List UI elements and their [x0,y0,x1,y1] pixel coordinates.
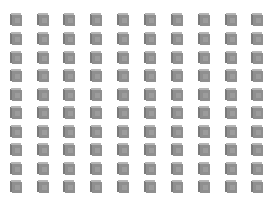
cube-icon[interactable] [171,162,183,175]
cube-icon[interactable] [171,51,183,64]
cube-icon[interactable] [37,88,49,101]
cube-icon[interactable] [198,13,210,26]
cube-icon[interactable] [63,143,75,156]
cube-icon[interactable] [37,69,49,82]
cube-icon[interactable] [10,162,22,175]
cube-icon[interactable] [90,88,102,101]
cube-icon[interactable] [144,51,156,64]
cube-icon[interactable] [117,162,129,175]
cube-icon[interactable] [198,106,210,119]
cube-icon[interactable] [251,32,263,45]
cube-icon[interactable] [10,125,22,138]
cube-icon[interactable] [63,162,75,175]
cube-icon[interactable] [90,69,102,82]
cube-icon[interactable] [37,162,49,175]
cube-icon[interactable] [37,13,49,26]
cube-icon[interactable] [251,51,263,64]
cube-icon[interactable] [198,180,210,193]
cube-icon[interactable] [10,180,22,193]
cube-icon[interactable] [225,13,237,26]
cube-icon[interactable] [225,180,237,193]
cube-icon[interactable] [251,162,263,175]
cube-icon[interactable] [37,125,49,138]
cube-icon[interactable] [144,106,156,119]
cube-icon[interactable] [198,69,210,82]
cube-icon[interactable] [90,51,102,64]
cube-icon[interactable] [225,32,237,45]
cube-icon[interactable] [144,69,156,82]
cube-icon[interactable] [10,51,22,64]
cube-icon[interactable] [90,162,102,175]
cube-icon[interactable] [251,106,263,119]
cube-icon[interactable] [63,13,75,26]
cube-icon[interactable] [251,180,263,193]
cube-icon[interactable] [198,51,210,64]
cube-icon[interactable] [90,143,102,156]
cube-icon[interactable] [251,88,263,101]
cube-icon[interactable] [117,125,129,138]
cube-icon[interactable] [90,125,102,138]
cube-icon[interactable] [225,106,237,119]
cube-icon[interactable] [198,143,210,156]
cube-icon[interactable] [225,88,237,101]
cube-icon[interactable] [63,88,75,101]
cube-icon[interactable] [198,125,210,138]
cube-icon[interactable] [225,162,237,175]
cube-icon[interactable] [171,143,183,156]
cube-icon[interactable] [225,143,237,156]
cube-icon[interactable] [171,32,183,45]
cube-icon[interactable] [144,32,156,45]
cube-icon[interactable] [171,88,183,101]
cube-icon[interactable] [10,13,22,26]
cube-icon[interactable] [10,32,22,45]
cube-icon[interactable] [144,143,156,156]
cube-icon[interactable] [10,106,22,119]
cube-icon[interactable] [198,88,210,101]
cube-icon[interactable] [251,143,263,156]
cube-icon[interactable] [251,13,263,26]
cube-icon[interactable] [63,180,75,193]
cube-icon[interactable] [117,88,129,101]
cube-icon[interactable] [171,69,183,82]
cube-icon[interactable] [251,125,263,138]
cube-icon[interactable] [63,106,75,119]
cube-icon[interactable] [37,106,49,119]
cube-icon[interactable] [117,106,129,119]
cube-icon[interactable] [171,125,183,138]
cube-icon[interactable] [171,13,183,26]
cube-icon[interactable] [144,13,156,26]
cube-icon[interactable] [144,88,156,101]
cube-icon[interactable] [198,32,210,45]
cube-icon[interactable] [117,69,129,82]
cube-icon[interactable] [63,125,75,138]
cube-icon[interactable] [10,69,22,82]
cube-icon[interactable] [63,69,75,82]
cube-icon[interactable] [37,32,49,45]
cube-icon[interactable] [90,180,102,193]
cube-icon[interactable] [63,32,75,45]
cube-icon[interactable] [10,143,22,156]
cube-icon[interactable] [90,32,102,45]
cube-icon[interactable] [117,13,129,26]
cube-icon[interactable] [144,180,156,193]
cube-icon[interactable] [225,51,237,64]
cube-icon[interactable] [117,180,129,193]
cube-icon[interactable] [144,162,156,175]
cube-icon[interactable] [225,69,237,82]
cube-icon[interactable] [117,143,129,156]
cube-icon[interactable] [117,51,129,64]
cube-icon[interactable] [90,106,102,119]
cube-icon[interactable] [10,88,22,101]
cube-icon[interactable] [37,51,49,64]
cube-icon[interactable] [198,162,210,175]
cube-icon[interactable] [117,32,129,45]
cube-icon[interactable] [37,143,49,156]
cube-icon[interactable] [90,13,102,26]
cube-icon[interactable] [171,106,183,119]
cube-icon[interactable] [251,69,263,82]
cube-icon[interactable] [63,51,75,64]
cube-icon[interactable] [144,125,156,138]
cube-icon[interactable] [171,180,183,193]
cube-icon[interactable] [225,125,237,138]
cube-icon[interactable] [37,180,49,193]
